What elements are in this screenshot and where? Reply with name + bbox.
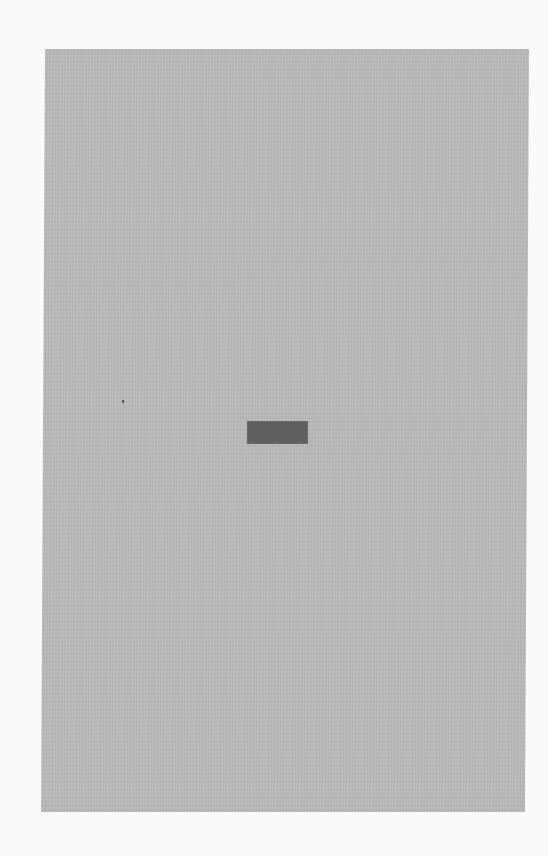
label-block — [247, 421, 308, 444]
scan-background — [0, 0, 548, 856]
dust-speck — [122, 400, 124, 403]
book-page — [41, 49, 529, 812]
